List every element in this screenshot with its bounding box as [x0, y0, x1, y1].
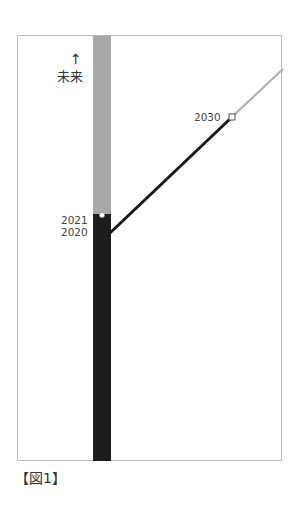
marker-2030-icon [229, 114, 235, 120]
label-2030: 2030 [194, 111, 221, 123]
label-2020: 2020 [61, 226, 88, 238]
figure-caption: 【図1】 [15, 467, 66, 487]
up-arrow-icon: ↑ [70, 52, 82, 66]
label-2021: 2021 [61, 214, 88, 226]
extension-line [233, 69, 283, 116]
trajectory-lines [0, 0, 299, 508]
marker-2021-icon [99, 212, 104, 217]
trajectory-line [110, 118, 231, 233]
future-label: 未来 [57, 66, 83, 85]
